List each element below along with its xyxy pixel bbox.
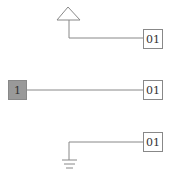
- schematic-diagram: 01 1 01 01: [0, 0, 172, 181]
- power-triangle-icon: [57, 7, 80, 20]
- ground-wire: [69, 142, 143, 160]
- net-label-text: 01: [146, 33, 160, 46]
- power-wire: [69, 20, 143, 38]
- input-port-text: 1: [14, 84, 21, 97]
- net-label-text: 01: [146, 84, 160, 97]
- port-net: 1 01: [9, 81, 163, 100]
- net-label-text: 01: [146, 136, 160, 149]
- ground-icon: [62, 160, 77, 168]
- power-net: 01: [57, 7, 163, 49]
- ground-net: 01: [62, 133, 163, 169]
